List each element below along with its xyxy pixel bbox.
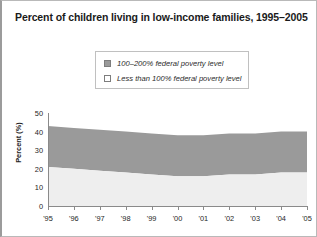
plot-area <box>48 113 307 206</box>
x-tick-label: '96 <box>61 214 87 223</box>
y-tick-label: 0 <box>27 203 43 210</box>
x-tick-label: '98 <box>113 214 139 223</box>
x-tick-label: '05 <box>294 214 317 223</box>
y-axis-line <box>48 113 49 206</box>
chart-figure: Percent of children living in low-income… <box>0 0 317 237</box>
x-tick-mark <box>178 206 179 210</box>
x-tick-mark <box>100 206 101 210</box>
x-tick-mark <box>74 206 75 210</box>
x-tick-label: '95 <box>35 214 61 223</box>
y-tick-label: 20 <box>27 166 43 173</box>
area-band-100-200-pct <box>48 126 307 176</box>
x-tick-mark <box>307 206 308 210</box>
x-tick-mark <box>126 206 127 210</box>
x-tick-label: '00 <box>165 214 191 223</box>
y-tick-label: 50 <box>27 110 43 117</box>
y-tick-label: 30 <box>27 147 43 154</box>
plot-wrapper: Percent (%) 50 40 30 20 10 0 '95'96'97'9… <box>2 1 317 237</box>
y-axis-title: Percent (%) <box>14 108 23 178</box>
x-tick-mark <box>255 206 256 210</box>
y-tick-label: 40 <box>27 129 43 136</box>
x-tick-label: '04 <box>268 214 294 223</box>
stacked-area-svg <box>48 113 307 206</box>
x-tick-mark <box>152 206 153 210</box>
x-tick-mark <box>48 206 49 210</box>
x-tick-mark <box>203 206 204 210</box>
y-tick-labels: 50 40 30 20 10 0 <box>26 110 43 210</box>
x-tick-mark <box>281 206 282 210</box>
x-tick-mark <box>229 206 230 210</box>
y-tick-label: 10 <box>27 184 43 191</box>
x-tick-label: '02 <box>216 214 242 223</box>
x-tick-label: '03 <box>242 214 268 223</box>
x-tick-label: '97 <box>87 214 113 223</box>
x-tick-label: '01 <box>190 214 216 223</box>
x-tick-label: '99 <box>139 214 165 223</box>
